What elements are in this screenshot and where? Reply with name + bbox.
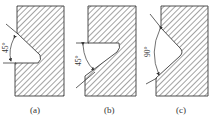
caption-c: (c): [176, 105, 186, 115]
angle-arc-c: [154, 29, 160, 75]
panel-a: 45° (a): [1, 6, 64, 115]
extension-line-c-bottom: [146, 78, 157, 84]
extension-line-c-top: [150, 14, 162, 29]
notch-figure: 45° (a) 45° (b) 90° (c): [0, 0, 216, 122]
angle-label-b: 45°: [74, 56, 83, 67]
hatched-block-b: [85, 6, 136, 96]
caption-b: (b): [104, 105, 115, 115]
hatched-block-a: [15, 6, 64, 96]
angle-label-c: 90°: [143, 47, 152, 58]
angle-arc-b: [83, 45, 94, 70]
hatched-block-c: [156, 6, 208, 96]
extension-line-a-top: [6, 24, 18, 34]
caption-a: (a): [30, 105, 40, 115]
panel-c: 90° (c): [143, 6, 208, 115]
angle-arc-a: [10, 38, 14, 61]
angle-label-a: 45°: [1, 43, 10, 54]
panel-b: 45° (b): [74, 6, 136, 115]
